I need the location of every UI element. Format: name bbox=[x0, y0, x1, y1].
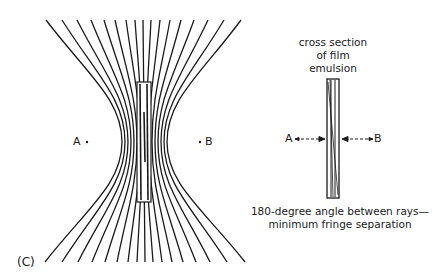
fringe-line bbox=[140, 84, 141, 200]
fringe-line bbox=[144, 112, 145, 162]
point-b-label: B bbox=[205, 136, 213, 148]
caption-line-1: 180-degree angle between rays— bbox=[240, 205, 440, 218]
caption-line-2: minimum fringe separation bbox=[240, 218, 440, 231]
film-cross-section bbox=[327, 79, 339, 198]
arrow-from-a bbox=[295, 137, 325, 142]
cross-section-title-line-3: emulsion bbox=[283, 62, 383, 75]
fringe-line bbox=[147, 84, 148, 200]
ray-line bbox=[77, 20, 128, 262]
panel-label: (C) bbox=[17, 256, 35, 268]
cross-section-a-label: A bbox=[285, 133, 293, 145]
ray-line bbox=[45, 20, 122, 262]
cross-section-title-line-1: cross section bbox=[283, 36, 383, 49]
arrow-from-b bbox=[342, 137, 373, 142]
point-a-dot bbox=[86, 141, 88, 143]
point-a-label: A bbox=[73, 136, 81, 148]
ray-line bbox=[164, 20, 227, 262]
cross-section-title: cross section of film emulsion bbox=[283, 36, 383, 75]
cross-section-title-line-2: of film bbox=[283, 49, 383, 62]
cross-section-b-label: B bbox=[374, 133, 382, 145]
ray-line bbox=[155, 20, 183, 262]
ray-line bbox=[104, 20, 134, 262]
cross-section-caption: 180-degree angle between rays— minimum f… bbox=[240, 205, 440, 231]
point-b-dot bbox=[199, 141, 201, 143]
